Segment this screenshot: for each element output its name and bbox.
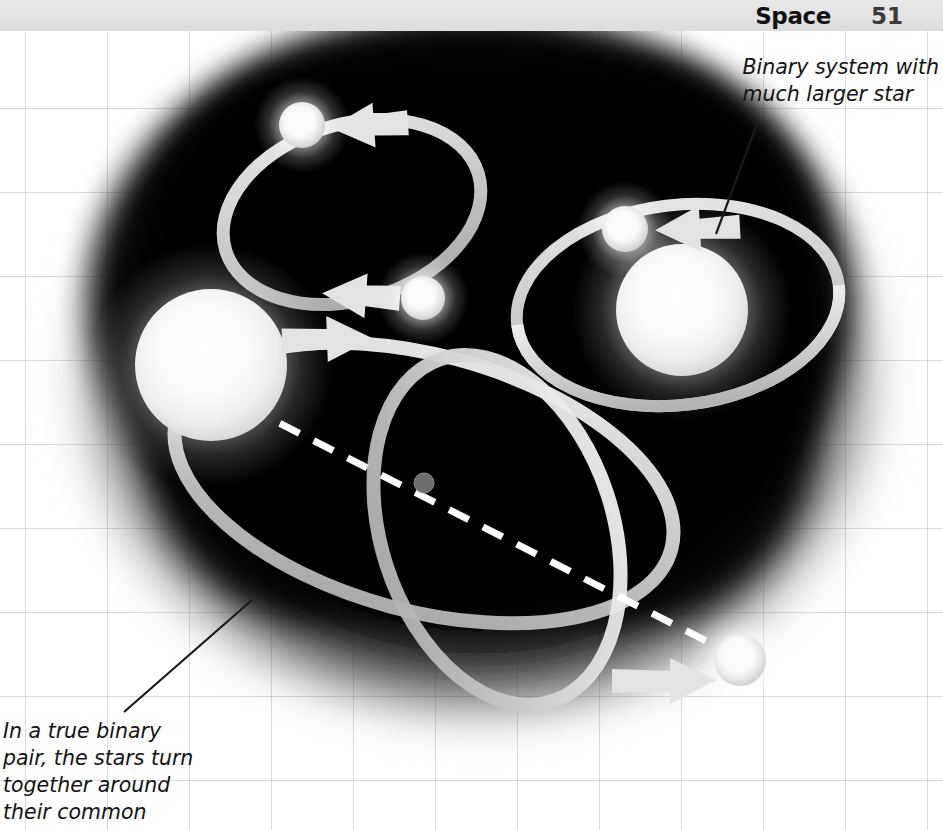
page-title: Space [755, 3, 831, 29]
barycentre-dot [414, 473, 434, 493]
star-upper-left [254, 77, 350, 173]
star-lower-right [377, 252, 469, 344]
star-small-lower-right [688, 608, 792, 712]
page-header-band: Space 51 [0, 0, 943, 31]
page-number: 51 [871, 3, 903, 29]
page-root: Space 51 Binary system with much larger … [0, 0, 943, 830]
star-large-left [89, 243, 333, 487]
binary-star-diagram [0, 0, 943, 830]
caption-binary-system-larger-star: Binary system with much larger star [742, 54, 939, 108]
caption-true-binary-pair: In a true binary pair, the stars turn to… [3, 718, 193, 826]
